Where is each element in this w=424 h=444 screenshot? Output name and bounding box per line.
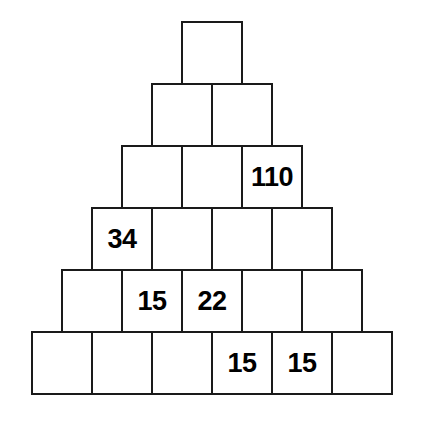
pyramid-cell[interactable]: [61, 269, 123, 333]
pyramid-cell[interactable]: [271, 207, 333, 271]
pyramid-cell[interactable]: [181, 21, 243, 85]
puzzle-canvas: 110 34 15 22 15 15: [0, 0, 424, 444]
pyramid-cell-filled[interactable]: 15: [211, 331, 273, 395]
pyramid-row-1: [181, 21, 243, 85]
pyramid-cell-filled[interactable]: 15: [271, 331, 333, 395]
pyramid-row-3: 110: [121, 145, 303, 209]
pyramid-row-2: [151, 83, 273, 147]
pyramid-cell[interactable]: [121, 145, 183, 209]
pyramid-cell[interactable]: [211, 207, 273, 271]
pyramid-cell[interactable]: [241, 269, 303, 333]
pyramid-cell-filled[interactable]: 22: [181, 269, 243, 333]
pyramid-cell[interactable]: [211, 83, 273, 147]
pyramid-cell-filled[interactable]: 15: [121, 269, 183, 333]
pyramid-cell-filled[interactable]: 34: [91, 207, 153, 271]
pyramid-cell-filled[interactable]: 110: [241, 145, 303, 209]
pyramid-row-6: 15 15: [31, 331, 393, 395]
pyramid-cell[interactable]: [151, 331, 213, 395]
pyramid-row-4: 34: [91, 207, 333, 271]
pyramid-cell[interactable]: [151, 83, 213, 147]
pyramid-cell[interactable]: [181, 145, 243, 209]
pyramid-row-5: 15 22: [61, 269, 363, 333]
pyramid-cell[interactable]: [331, 331, 393, 395]
pyramid-cell[interactable]: [31, 331, 93, 395]
pyramid-cell[interactable]: [301, 269, 363, 333]
pyramid-cell[interactable]: [151, 207, 213, 271]
number-pyramid: 110 34 15 22 15 15: [0, 0, 424, 444]
pyramid-cell[interactable]: [91, 331, 153, 395]
